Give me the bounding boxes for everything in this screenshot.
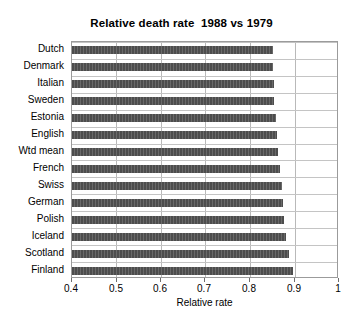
x-axis-tick-label-0.9: 0.9	[274, 283, 314, 294]
row-separator	[72, 93, 337, 94]
row-separator	[72, 76, 337, 77]
x-axis-tick-label-0.4: 0.4	[51, 283, 91, 294]
y-axis-label-german: German	[28, 196, 64, 207]
bar-sweden	[72, 97, 274, 105]
bar-denmark	[72, 63, 273, 71]
bar-estonia	[72, 114, 276, 122]
y-axis-label-english: English	[31, 128, 64, 139]
x-axis-tick-0.4	[71, 278, 72, 282]
x-axis-tick-0.7	[204, 278, 205, 282]
bar-series	[72, 42, 337, 277]
row-separator	[72, 160, 337, 161]
bar-swiss	[72, 182, 282, 190]
row-separator	[72, 110, 337, 111]
row-separator	[72, 228, 337, 229]
x-axis-tick-1	[338, 278, 339, 282]
y-axis-label-sweden: Sweden	[28, 94, 64, 105]
bar-english	[72, 131, 277, 139]
y-axis-category-labels: DutchDenmarkItalianSwedenEstoniaEnglishW…	[0, 41, 68, 278]
bar-italian	[72, 80, 274, 88]
x-axis-tick-0.8	[249, 278, 250, 282]
row-separator	[72, 59, 337, 60]
bar-french	[72, 165, 280, 173]
x-axis-tick-0.5	[116, 278, 117, 282]
y-axis-label-italian: Italian	[37, 77, 64, 88]
bar-german	[72, 199, 283, 207]
y-axis-label-finland: Finland	[31, 264, 64, 275]
row-separator	[72, 245, 337, 246]
x-axis-tick-0.6	[160, 278, 161, 282]
row-separator	[72, 194, 337, 195]
y-axis-label-denmark: Denmark	[23, 60, 64, 71]
bar-dutch	[72, 46, 273, 54]
y-axis-label-polish: Polish	[37, 213, 64, 224]
y-axis-label-dutch: Dutch	[38, 43, 64, 54]
y-axis-label-scotland: Scotland	[25, 247, 64, 258]
row-separator	[72, 127, 337, 128]
chart-title: Relative death rate 1988 vs 1979	[0, 17, 363, 29]
x-axis-tick-label-0.8: 0.8	[229, 283, 269, 294]
y-axis-label-estonia: Estonia	[31, 111, 64, 122]
x-axis-tick-label-1: 1	[318, 283, 358, 294]
x-axis-tick-0.9	[294, 278, 295, 282]
row-separator	[72, 144, 337, 145]
y-axis-label-wtd-mean: Wtd mean	[18, 145, 64, 156]
y-axis-label-swiss: Swiss	[38, 179, 64, 190]
bar-finland	[72, 267, 293, 275]
x-axis-tick-label-0.6: 0.6	[140, 283, 180, 294]
row-separator	[72, 42, 337, 43]
bar-iceland	[72, 233, 286, 241]
row-separator	[72, 177, 337, 178]
bar-scotland	[72, 250, 289, 258]
y-axis-label-french: French	[33, 162, 64, 173]
y-axis-label-iceland: Iceland	[32, 230, 64, 241]
x-axis-tick-label-0.7: 0.7	[184, 283, 224, 294]
plot-area	[71, 41, 338, 278]
row-separator	[72, 262, 337, 263]
bar-polish	[72, 216, 284, 224]
x-axis-tick-label-0.5: 0.5	[96, 283, 136, 294]
row-separator	[72, 211, 337, 212]
x-axis-title: Relative rate	[71, 297, 338, 308]
relative-death-rate-bar-chart: Relative death rate 1988 vs 1979 DutchDe…	[0, 0, 363, 325]
bar-wtd-mean	[72, 148, 278, 156]
